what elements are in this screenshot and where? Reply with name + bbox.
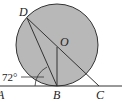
- label-d: D: [18, 5, 28, 19]
- angle-label: 72°: [2, 71, 17, 83]
- label-o: O: [60, 35, 69, 49]
- label-b: B: [53, 88, 61, 102]
- label-c: C: [96, 88, 105, 102]
- geometry-diagram: D O A B C 72°: [0, 0, 125, 103]
- label-a: A: [0, 88, 5, 102]
